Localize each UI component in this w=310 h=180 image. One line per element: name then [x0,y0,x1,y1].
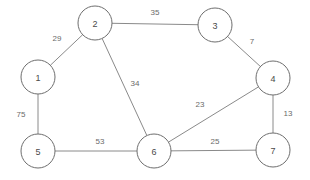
graph-edge-4-6 [168,87,258,142]
edge-weight-4-6: 23 [196,100,205,109]
graph-node-5[interactable]: 5 [21,134,55,168]
graph-edge-2-3 [112,23,198,24]
node-label-3: 3 [212,21,217,31]
edge-weight-5-6: 53 [96,137,105,146]
graph-node-2[interactable]: 2 [78,6,112,40]
edge-weights-layer: 29353472313755325 [14,6,295,147]
graph-node-7[interactable]: 7 [256,133,290,167]
edges-layer [38,23,273,151]
graph-svg: 29353472313755325 1234567 [0,0,310,180]
graph-node-6[interactable]: 6 [137,134,171,168]
graph-node-4[interactable]: 4 [256,61,290,95]
graph-node-3[interactable]: 3 [198,8,232,42]
graph-edge-6-7 [171,150,256,151]
edge-weight-2-6: 34 [131,79,140,88]
graph-canvas: 29353472313755325 1234567 [0,0,310,180]
edge-weight-3-4: 7 [250,37,255,46]
graph-node-1[interactable]: 1 [21,60,55,94]
node-label-1: 1 [35,73,40,83]
node-label-7: 7 [270,146,275,156]
edge-weight-1-2: 29 [53,34,62,43]
node-label-4: 4 [270,74,275,84]
node-label-5: 5 [35,147,40,157]
node-label-2: 2 [92,19,97,29]
edge-weight-6-7: 25 [211,137,220,146]
edge-weight-2-3: 35 [151,8,160,17]
node-label-6: 6 [151,147,156,157]
nodes-layer: 1234567 [21,6,290,168]
edge-weight-1-5: 75 [17,110,26,119]
edge-weight-4-7: 13 [284,109,293,118]
